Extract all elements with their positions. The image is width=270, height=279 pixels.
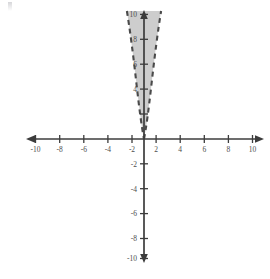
x-label-10: 10	[249, 145, 257, 154]
x-axis-left-arrowhead	[26, 135, 35, 143]
x-label-2: 2	[154, 145, 158, 154]
y-label-8: 8	[133, 35, 137, 44]
x-label--8: -8	[57, 145, 63, 154]
x-label--6: -6	[81, 145, 87, 154]
x-label--10: -10	[31, 145, 41, 154]
y-label--10: -10	[127, 254, 137, 263]
x-label--4: -4	[105, 145, 111, 154]
x-label--2: -2	[129, 145, 135, 154]
y-label-10: 10	[130, 10, 138, 19]
y-label-6: 6	[133, 60, 137, 69]
y-label--8: -8	[131, 234, 137, 243]
y-label-4: 4	[133, 85, 137, 94]
x-label-8: 8	[227, 145, 231, 154]
coordinate-plane-svg: -10 -8 -6 -4 -2 2 4 6 8 10 10 8 6 4 -2 -…	[0, 0, 270, 279]
x-label-4: 4	[178, 145, 182, 154]
x-label-6: 6	[202, 145, 206, 154]
graph-figure: -10 -8 -6 -4 -2 2 4 6 8 10 10 8 6 4 -2 -…	[0, 0, 270, 279]
x-axis-right-arrowhead	[255, 135, 264, 143]
y-label--6: -6	[131, 209, 137, 218]
y-label--2: -2	[131, 160, 137, 169]
y-label--4: -4	[131, 185, 137, 194]
